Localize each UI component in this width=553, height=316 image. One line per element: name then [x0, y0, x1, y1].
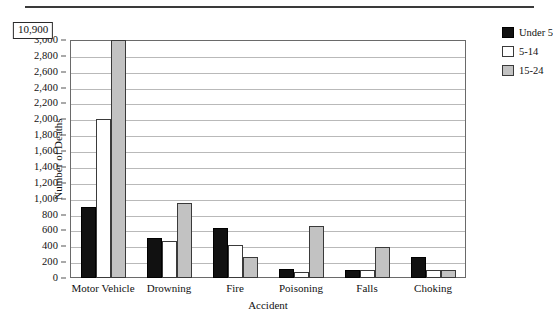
y-axis-tick-mark: [61, 71, 66, 72]
y-axis-tick-mark: [61, 214, 66, 215]
bar: [441, 270, 456, 278]
legend-item: Under 5: [502, 26, 548, 38]
y-axis-tick-mark: [61, 40, 66, 41]
bar: [309, 226, 324, 278]
y-axis-tick-mark: [61, 262, 66, 263]
x-axis-tick-labels: Motor VehicleDrowningFirePoisoningFallsC…: [70, 282, 466, 298]
y-axis: Number of Deaths 02004006008001,0001,200…: [0, 40, 66, 278]
bar: [243, 257, 258, 278]
legend-label: 5-14: [519, 46, 538, 57]
y-axis-tick-mark: [61, 230, 66, 231]
bar-group: [147, 40, 192, 278]
x-axis-tick-label: Drowning: [147, 282, 192, 294]
legend-item: 5-14: [502, 45, 548, 57]
y-axis-tick-label: 600: [42, 225, 58, 236]
y-axis-tick-label: 1,600: [34, 146, 58, 157]
y-axis-tick-label: 2,200: [34, 98, 58, 109]
y-axis-tick-mark: [61, 198, 66, 199]
bar-group: [345, 40, 390, 278]
bar: [375, 247, 390, 278]
bar: [96, 119, 111, 278]
y-axis-tick-label: 1,400: [34, 162, 58, 173]
y-axis-tick-mark: [61, 166, 66, 167]
y-axis-tick-label: 2,800: [34, 51, 58, 62]
y-axis-tick-label: 1,000: [34, 193, 58, 204]
legend-label: 15-24: [519, 65, 544, 76]
bar: [360, 270, 375, 278]
y-axis-tick-mark: [61, 119, 66, 120]
bar: [411, 257, 426, 278]
bar: [147, 238, 162, 278]
y-axis-tick-label: 2,400: [34, 82, 58, 93]
legend-swatch: [502, 65, 514, 76]
y-axis-tick-label: 2,600: [34, 66, 58, 77]
legend-swatch: [502, 27, 514, 38]
bar: [162, 241, 177, 278]
y-axis-tick-label: 800: [42, 209, 58, 220]
bar: [81, 207, 96, 278]
x-axis-tick-label: Fire: [226, 282, 244, 294]
x-axis-tick-label: Choking: [414, 282, 452, 294]
bar: [426, 270, 441, 278]
bar: [294, 272, 309, 278]
bar: [177, 203, 192, 278]
y-axis-tick-mark: [61, 87, 66, 88]
y-axis-tick-mark: [61, 182, 66, 183]
y-axis-tick-mark: [61, 135, 66, 136]
x-axis-tick-label: Motor Vehicle: [71, 282, 134, 294]
value-callout: 10,900: [13, 22, 53, 39]
y-axis-tick-mark: [61, 151, 66, 152]
y-axis-tick-label: 400: [42, 241, 58, 252]
bar: [111, 40, 126, 278]
y-axis-tick-label: 1,800: [34, 130, 58, 141]
y-axis-tick-mark: [61, 246, 66, 247]
x-axis-tick-label: Poisoning: [279, 282, 323, 294]
bar-group: [411, 40, 456, 278]
legend-item: 15-24: [502, 64, 548, 76]
bar: [279, 269, 294, 278]
legend-label: Under 5: [519, 27, 553, 38]
bar: [228, 245, 243, 278]
bar: [345, 270, 360, 278]
x-axis-title: Accident: [70, 299, 466, 311]
bar-group: [213, 40, 258, 278]
top-divider-rule: [25, 6, 534, 8]
y-axis-tick-label: 2,000: [34, 114, 58, 125]
y-axis-tick-label: 0: [53, 273, 58, 284]
legend-swatch: [502, 46, 514, 57]
bar-group: [81, 40, 126, 278]
bar-group: [279, 40, 324, 278]
y-axis-tick-mark: [61, 103, 66, 104]
y-axis-tick-mark: [61, 55, 66, 56]
y-axis-tick-label: 1,200: [34, 178, 58, 189]
y-axis-tick-label: 200: [42, 257, 58, 268]
legend: Under 55-1415-24: [502, 26, 548, 83]
bar: [213, 228, 228, 278]
x-axis-tick-label: Falls: [356, 282, 377, 294]
bar-groups: [70, 40, 466, 278]
y-axis-tick-mark: [61, 278, 66, 279]
